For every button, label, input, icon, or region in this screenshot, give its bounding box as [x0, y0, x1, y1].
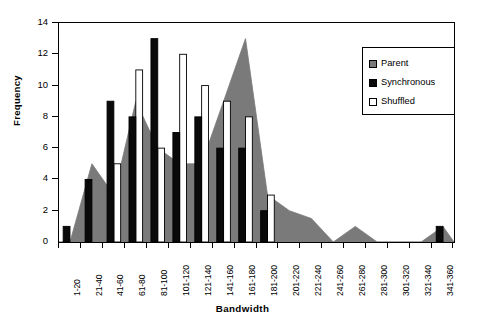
x-tick-label: 201-220 [292, 265, 301, 296]
x-tick-mark [234, 243, 235, 248]
x-tick-label: 101-120 [182, 265, 191, 296]
x-tick-mark [212, 243, 213, 248]
x-tick-mark [146, 243, 147, 248]
bar [158, 148, 165, 242]
y-axis: 02468101214 [0, 0, 58, 243]
bar [239, 148, 246, 242]
legend-item-synchronous: Synchronous [369, 73, 454, 92]
x-tick-label: 261-280 [358, 265, 367, 296]
legend-item-shuffled: Shuffled [369, 92, 454, 111]
y-tick-label: 4 [43, 174, 48, 184]
gray-swatch-icon [369, 60, 377, 68]
y-tick-label: 2 [43, 205, 48, 215]
legend-item-parent: Parent [369, 54, 454, 73]
x-tick-label: 281-300 [380, 265, 389, 296]
chart-figure: 02468101214 Frequency 1-2021-4041-6061-8… [0, 0, 485, 325]
bar [180, 54, 187, 242]
y-tick-label: 6 [43, 142, 48, 152]
x-tick-label: 81-100 [160, 270, 169, 296]
bar [246, 117, 253, 242]
y-tick-label: 12 [37, 49, 48, 59]
black-swatch-icon [369, 79, 377, 87]
bar [195, 117, 202, 242]
x-tick-mark [431, 243, 432, 248]
x-tick-label: 181-200 [270, 265, 279, 296]
x-tick-mark [365, 243, 366, 248]
x-tick-mark [277, 243, 278, 248]
legend-label-parent: Parent [381, 59, 408, 68]
x-tick-label: 301-320 [402, 265, 411, 296]
x-axis-title: Bandwidth [0, 303, 485, 314]
x-tick-label: 21-40 [95, 275, 104, 296]
bar [202, 86, 209, 242]
x-axis-labels: 1-2021-4041-6061-8081-100101-120121-1401… [58, 250, 455, 305]
x-tick-label: 41-60 [116, 275, 125, 296]
x-tick-mark [124, 243, 125, 248]
x-tick-mark [168, 243, 169, 248]
x-tick-label: 241-260 [336, 265, 345, 296]
y-tick-label: 0 [43, 236, 48, 246]
x-tick-mark [321, 243, 322, 248]
x-tick-mark [256, 243, 257, 248]
x-tick-label: 341-360 [446, 265, 455, 296]
y-tick-label: 14 [37, 17, 48, 27]
bar [114, 164, 121, 242]
x-tick-mark [452, 243, 453, 248]
x-tick-label: 121-140 [204, 265, 213, 296]
x-tick-mark [299, 243, 300, 248]
bar [217, 148, 224, 242]
bar [267, 195, 274, 242]
bar [107, 101, 114, 242]
bar [436, 226, 443, 242]
x-tick-mark [102, 243, 103, 248]
x-tick-mark [387, 243, 388, 248]
x-tick-mark [80, 243, 81, 248]
white-swatch-icon [369, 98, 377, 106]
bar [85, 179, 92, 242]
x-tick-mark [190, 243, 191, 248]
x-tick-label: 61-80 [138, 275, 147, 296]
y-tick-label: 10 [37, 80, 48, 90]
x-tick-mark [58, 243, 59, 248]
bar [63, 226, 70, 242]
legend-label-shuffled: Shuffled [381, 97, 415, 106]
bar [224, 101, 231, 242]
x-tick-label: 141-160 [226, 265, 235, 296]
y-tick-label: 8 [43, 111, 48, 121]
chart-legend: Parent Synchronous Shuffled [362, 47, 455, 115]
x-tick-label: 161-180 [248, 265, 257, 296]
y-axis-title: Frequency [11, 61, 22, 141]
bar [261, 211, 268, 242]
bar [129, 117, 136, 242]
x-tick-label: 1-20 [73, 279, 82, 296]
x-tick-label: 321-340 [424, 265, 433, 296]
x-tick-mark [343, 243, 344, 248]
bar [136, 70, 143, 242]
bar [151, 39, 158, 242]
legend-label-synchronous: Synchronous [381, 78, 435, 87]
bar [173, 133, 180, 243]
x-tick-mark [409, 243, 410, 248]
x-tick-label: 221-240 [314, 265, 323, 296]
